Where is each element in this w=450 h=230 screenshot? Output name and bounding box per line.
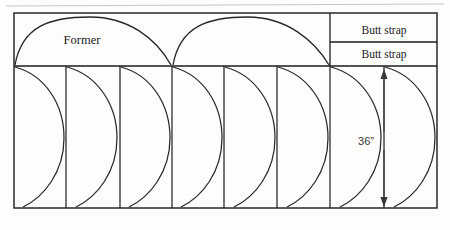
former-label-1: Former bbox=[64, 33, 102, 47]
butt-strap-label-bottom: Butt strap bbox=[361, 48, 406, 61]
butt-strap-label-top: Butt strap bbox=[361, 24, 406, 37]
former-layout-diagram: Former Butt strap Butt strap 36” bbox=[0, 0, 450, 230]
dimension-label-36: 36” bbox=[358, 135, 374, 147]
diagram-canvas: Former Butt strap Butt strap 36” bbox=[0, 0, 450, 230]
